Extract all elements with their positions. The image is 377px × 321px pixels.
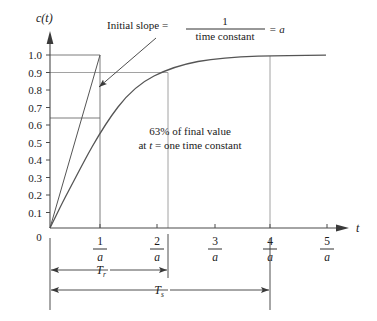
x-tick-fraction: 5 a: [320, 235, 334, 263]
initial-slope-denominator: time constant: [196, 30, 255, 42]
x-axis-arrowhead: [336, 225, 349, 232]
y-tick-label: 0.7: [28, 102, 42, 114]
y-axis-title: c(t): [36, 11, 53, 25]
step-response-chart: 1.0 0.9 0.8 0.7 0.6 0.5 0.4 0.3 0.2 0.1 …: [0, 0, 377, 321]
origin-label: 0: [36, 231, 42, 243]
settling-time-label: Ts: [154, 283, 164, 299]
y-tick-label: 0.5: [28, 137, 42, 149]
final-value-line1: 63% of final value: [149, 125, 231, 137]
y-axis-arrowhead: [47, 31, 54, 44]
y-tick-label: 0.6: [28, 119, 42, 131]
y-tick-label: 1.0: [28, 49, 42, 61]
x-axis-title: t: [356, 221, 360, 235]
fraction-numerator: 3: [212, 235, 218, 247]
fraction-numerator: 1: [97, 235, 103, 247]
initial-slope-label: Initial slope =: [107, 19, 168, 31]
x-axis-ticks: [100, 224, 327, 228]
x-tick-fraction: 3 a: [208, 235, 222, 263]
y-tick-label: 0.9: [28, 67, 42, 79]
final-value-line2: at t = one time constant: [138, 139, 241, 151]
fraction-denominator: a: [97, 251, 103, 263]
y-tick-label: 0.2: [28, 189, 42, 201]
y-tick-label: 0.4: [28, 154, 42, 166]
fraction-numerator: 2: [154, 235, 160, 247]
x-tick-fraction: 2 a: [150, 235, 164, 263]
y-axis-ticks: [46, 55, 50, 213]
initial-slope-equals-a: = a: [269, 23, 285, 35]
x-tick-fraction: 1 a: [93, 235, 107, 263]
y-tick-label: 0.3: [28, 172, 42, 184]
y-tick-label: 0.1: [28, 207, 42, 219]
rise-time-label: Tr: [96, 263, 106, 279]
initial-slope-tangent: [50, 55, 100, 228]
figure-container: 1.0 0.9 0.8 0.7 0.6 0.5 0.4 0.3 0.2 0.1 …: [0, 0, 377, 321]
rise-time-dimension: Tr: [50, 234, 168, 279]
x-axis-tick-labels: 1 a 2 a 3 a 4 a 5 a: [93, 235, 334, 263]
fraction-denominator: a: [212, 251, 218, 263]
initial-slope-numerator: 1: [222, 15, 228, 27]
final-value-annotation: 63% of final value at t = one time const…: [138, 125, 241, 151]
y-axis-tick-labels: 1.0 0.9 0.8 0.7 0.6 0.5 0.4 0.3 0.2 0.1 …: [28, 49, 42, 243]
fraction-denominator: a: [154, 251, 160, 263]
initial-slope-annotation: Initial slope = 1 time constant = a: [99, 15, 285, 87]
fraction-denominator: a: [324, 251, 330, 263]
y-tick-label: 0.8: [28, 84, 42, 96]
fraction-numerator: 5: [324, 235, 330, 247]
